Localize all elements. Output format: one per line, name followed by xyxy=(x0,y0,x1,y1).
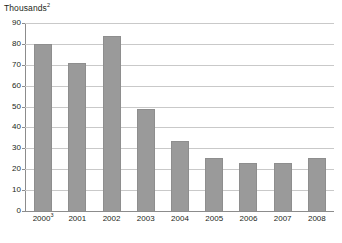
y-tick-label-50: 50 xyxy=(1,103,21,111)
y-tick-label-60: 60 xyxy=(1,82,21,90)
y-tick-mark-50 xyxy=(22,107,25,108)
x-tick-label-2005: 2005 xyxy=(197,214,231,224)
y-tick-label-40: 40 xyxy=(1,123,21,131)
y-tick-label-80: 80 xyxy=(1,40,21,48)
x-tick-label-2002: 2002 xyxy=(94,214,128,224)
bar-2001[interactable] xyxy=(68,63,86,211)
y-axis-labels: 9080706050403020100 xyxy=(0,23,21,212)
y-tick-mark-90 xyxy=(22,23,25,24)
y-tick-mark-30 xyxy=(22,148,25,149)
x-tick-label-text: 2004 xyxy=(171,214,189,223)
y-tick-label-10: 10 xyxy=(1,186,21,194)
x-tick-label-superscript: 3 xyxy=(50,212,53,218)
y-tick-label-20: 20 xyxy=(1,165,21,173)
y-tick-label-0: 0 xyxy=(1,207,21,215)
y-tick-mark-70 xyxy=(22,65,25,66)
y-tick-label-30: 30 xyxy=(1,144,21,152)
x-tick-label-2004: 2004 xyxy=(163,214,197,224)
x-tick-label-text: 2000 xyxy=(33,214,51,223)
x-tick-label-2003: 2003 xyxy=(129,214,163,224)
bar-2006[interactable] xyxy=(239,163,257,211)
chart-title-text: Thousands xyxy=(4,3,47,13)
chart-title: Thousands2 xyxy=(4,3,50,13)
bar-2007[interactable] xyxy=(274,163,292,211)
y-tick-label-90: 90 xyxy=(1,19,21,27)
y-tick-label-70: 70 xyxy=(1,61,21,69)
x-tick-label-2008: 2008 xyxy=(300,214,334,224)
gridline-0 xyxy=(25,211,334,212)
y-tick-mark-20 xyxy=(22,169,25,170)
bar-2000[interactable] xyxy=(34,44,52,211)
footnote-clipped xyxy=(4,239,224,243)
bar-2008[interactable] xyxy=(308,158,326,211)
x-tick-label-text: 2006 xyxy=(240,214,258,223)
bar-2002[interactable] xyxy=(103,36,121,211)
x-tick-label-text: 2008 xyxy=(308,214,326,223)
y-tick-mark-0 xyxy=(22,211,25,212)
x-tick-label-2006: 2006 xyxy=(231,214,265,224)
bar-2005[interactable] xyxy=(205,158,223,211)
bars-layer xyxy=(26,23,334,211)
x-tick-label-text: 2003 xyxy=(137,214,155,223)
bar-2004[interactable] xyxy=(171,141,189,211)
x-tick-label-text: 2007 xyxy=(274,214,292,223)
y-tick-mark-10 xyxy=(22,190,25,191)
bar-2003[interactable] xyxy=(137,109,155,211)
y-tick-mark-40 xyxy=(22,127,25,128)
x-tick-label-2000: 20003 xyxy=(26,214,60,224)
x-axis-labels: 2000320012002200320042005200620072008 xyxy=(26,214,334,228)
chart-title-superscript: 2 xyxy=(47,2,50,8)
x-tick-label-text: 2002 xyxy=(103,214,121,223)
x-tick-label-text: 2005 xyxy=(205,214,223,223)
x-tick-label-2001: 2001 xyxy=(60,214,94,224)
x-tick-label-2007: 2007 xyxy=(266,214,300,224)
y-tick-mark-80 xyxy=(22,44,25,45)
x-tick-label-text: 2001 xyxy=(68,214,86,223)
y-tick-mark-60 xyxy=(22,86,25,87)
